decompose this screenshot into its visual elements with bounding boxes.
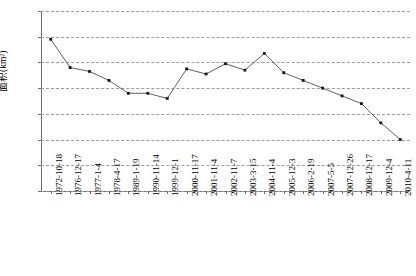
x-tick-label-1972-10-18: 1972-10-18 [55,154,64,196]
x-tick-label-2009-12-4: 2009-12-4 [385,159,394,197]
data-point-2009-12-4 [379,121,382,124]
series-line [51,39,401,139]
x-tick-label-1977-1-4: 1977-1-4 [94,163,103,196]
data-point-2007-5-5 [321,87,324,90]
x-tick-mark [400,191,401,194]
x-tick-label-2006-2-19: 2006-2-19 [307,159,316,197]
x-tick-mark [381,191,382,194]
x-tick-label-2001-11-4: 2001-11-4 [210,159,219,196]
data-point-2010-4-11 [399,138,402,141]
x-tick-mark [245,191,246,194]
x-tick-label-2005-12-3: 2005-12-3 [288,159,297,197]
x-tick-label-1999-12-1: 1999-12-1 [171,159,180,197]
x-tick-mark [206,191,207,194]
x-tick-label-2007-5-5: 2007-5-5 [327,163,336,196]
chart-container: 面积(km²) 5605806006206406606807001972-10-… [0,0,416,276]
data-point-1976-12-17 [69,66,72,69]
x-tick-mark [51,191,52,194]
data-point-2002-11-7 [224,62,227,65]
x-tick-mark [70,191,71,194]
data-point-2005-12-3 [282,71,285,74]
data-point-2004-11-4 [263,52,266,55]
data-point-2007-12-26 [341,94,344,97]
x-tick-label-1978-4-17: 1978-4-17 [113,159,122,197]
data-point-1977-1-4 [88,70,91,73]
x-tick-label-1990-11-14: 1990-11-14 [152,154,161,196]
x-tick-mark [284,191,285,194]
data-point-1990-11-14 [146,92,149,95]
x-tick-label-2008-12-17: 2008-12-17 [365,154,374,196]
x-tick-mark [109,191,110,194]
data-point-2008-12-17 [360,102,363,105]
data-point-2001-11-4 [205,73,208,76]
x-tick-mark [167,191,168,194]
x-tick-label-1976-12-17: 1976-12-17 [74,154,83,196]
data-point-1978-4-17 [108,79,111,82]
x-tick-label-2000-11-17: 2000-11-17 [191,154,200,196]
x-tick-mark [264,191,265,194]
x-tick-label-2007-12-26: 2007-12-26 [346,154,355,196]
data-point-2000-11-17 [185,67,188,70]
x-tick-mark [226,191,227,194]
x-tick-label-2010-4-11: 2010-4-11 [404,159,413,196]
data-point-1999-12-1 [166,97,169,100]
data-point-1972-10-18 [49,38,52,41]
x-tick-label-2004-11-4: 2004-11-4 [268,159,277,196]
x-tick-label-1989-1-19: 1989-1-19 [132,159,141,197]
x-tick-mark [342,191,343,194]
data-point-2006-2-19 [302,79,305,82]
x-tick-mark [128,191,129,194]
x-tick-mark [323,191,324,194]
data-point-2003-3-15 [244,69,247,72]
data-point-1989-1-19 [127,92,130,95]
x-tick-mark [148,191,149,194]
x-tick-mark [187,191,188,194]
x-tick-label-2003-3-15: 2003-3-15 [249,159,258,197]
x-tick-label-2002-11-7: 2002-11-7 [230,159,239,196]
x-tick-mark [361,191,362,194]
x-tick-mark [90,191,91,194]
x-tick-mark [303,191,304,194]
y-axis-title: 面积(km²) [0,51,9,92]
